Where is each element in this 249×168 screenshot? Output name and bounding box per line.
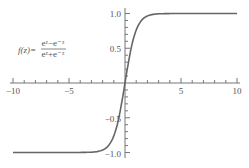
x-tick--10: −10 (6, 86, 21, 96)
x-tick-10: 10 (233, 86, 243, 96)
tanh-chart: −10 −5 5 10 1.0 0.5 −0.5 −1.0 f(z)= eᶻ−e… (0, 0, 249, 168)
y-tick--1: −1.0 (105, 149, 122, 159)
formula-numerator: eᶻ−e⁻ᶻ (42, 38, 66, 48)
x-tick--5: −5 (64, 86, 74, 96)
y-tick--0.5: −0.5 (105, 114, 122, 124)
formula-lhs: f(z)= (18, 45, 36, 55)
y-tick-1: 1.0 (110, 9, 122, 19)
y-tick-0.5: 0.5 (110, 44, 122, 54)
x-tick-5: 5 (179, 86, 184, 96)
formula-denominator: eᶻ+e⁻ᶻ (42, 49, 66, 59)
plot-area: −10 −5 5 10 1.0 0.5 −0.5 −1.0 f(z)= eᶻ−e… (0, 0, 249, 168)
